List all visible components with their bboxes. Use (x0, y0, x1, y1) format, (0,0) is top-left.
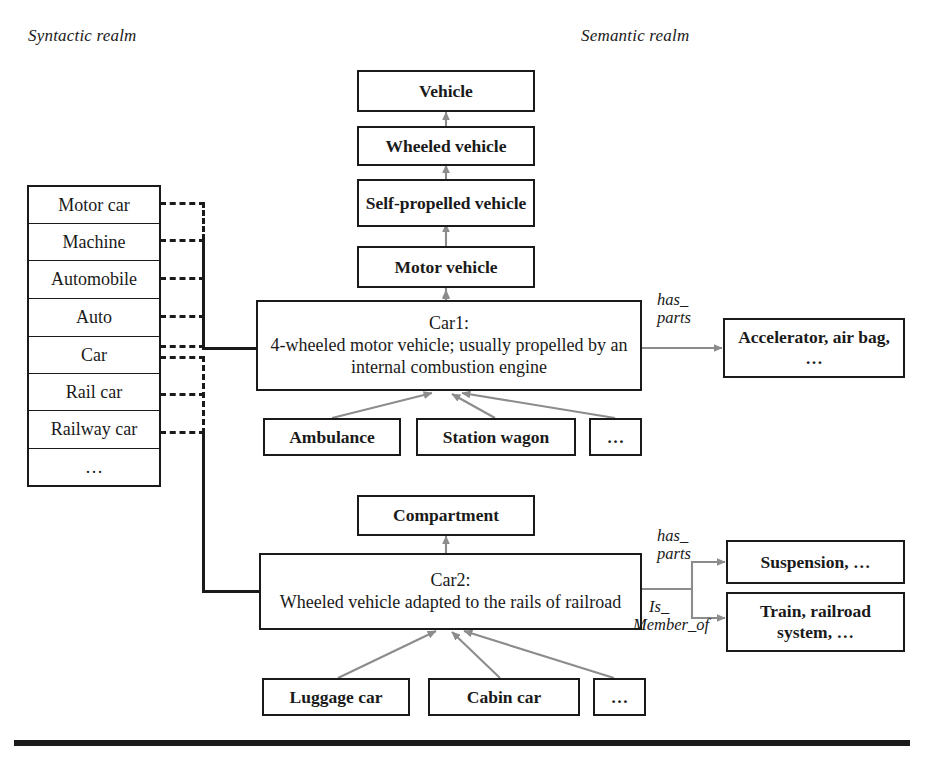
relation-label-line2: parts (657, 309, 691, 327)
hyponym-ambulance[interactable]: Ambulance (263, 418, 401, 456)
heading-syntactic-realm: Syntactic realm (28, 26, 137, 46)
meronym-compartment[interactable]: Compartment (357, 495, 535, 536)
dash-link-car-upper (160, 345, 205, 348)
syn-row-label: Motor car (58, 195, 129, 216)
relation-label-line1: Is_ (649, 598, 709, 616)
sense-box-car2[interactable]: Car2: Wheeled vehicle adapted to the rai… (259, 553, 642, 630)
relation-target-accelerator-airbag[interactable]: Accelerator, air bag, … (723, 318, 905, 378)
syn-row-label: Automobile (51, 269, 137, 290)
node-label: Motor vehicle (390, 257, 501, 278)
dash-link-auto (160, 315, 205, 318)
syn-row-label: Railway car (51, 419, 137, 440)
relation-label-has-parts-car2: has_ parts (657, 527, 691, 564)
relation-label-is-member-of: Is_ Member_of (649, 598, 709, 635)
relation-target-label: Train, railroad system, … (728, 601, 903, 642)
relation-label-has-parts-car1: has_ parts (657, 291, 691, 328)
bottom-divider-rule (14, 740, 910, 746)
dash-link-machine (160, 239, 205, 242)
node-motor-vehicle[interactable]: Motor vehicle (357, 246, 535, 288)
hyponym-label: Cabin car (463, 687, 545, 708)
syn-row-label: Car (81, 345, 107, 366)
hyponym-luggage-car[interactable]: Luggage car (262, 678, 410, 716)
solid-bus-lower (202, 430, 205, 592)
relation-label-line2: parts (657, 545, 691, 563)
relation-label-line2: Member_of (633, 616, 709, 634)
dash-bus-lower (202, 356, 205, 434)
relation-target-suspension[interactable]: Suspension, … (726, 540, 905, 584)
node-wheeled-vehicle[interactable]: Wheeled vehicle (357, 126, 535, 166)
sense-gloss-car2: Wheeled vehicle adapted to the rails of … (270, 592, 631, 613)
relation-target-label: Accelerator, air bag, … (725, 327, 903, 368)
hyponym-label: Station wagon (439, 427, 553, 448)
relation-target-train-railroad-system[interactable]: Train, railroad system, … (726, 592, 905, 652)
syn-row-automobile[interactable]: Automobile (29, 261, 159, 299)
solid-link-to-car2 (202, 590, 260, 593)
node-label: Self-propelled vehicle (362, 193, 531, 214)
syntactic-word-table: Motor car Machine Automobile Auto Car Ra… (27, 185, 161, 487)
hyponym-label: … (607, 687, 633, 708)
sense-id-car2: Car2: (427, 570, 475, 591)
syn-row-label: Rail car (66, 382, 122, 403)
node-label: Vehicle (415, 81, 477, 102)
solid-link-to-car1 (202, 347, 257, 350)
relation-label-line1: has_ (657, 527, 691, 545)
dash-link-automobile (160, 277, 205, 280)
node-label: Wheeled vehicle (381, 136, 510, 157)
relation-target-label: Suspension, … (753, 552, 879, 573)
syn-row-label: … (85, 457, 103, 478)
syn-row-ellipsis[interactable]: … (29, 449, 159, 485)
hyponym-cabin-car[interactable]: Cabin car (428, 678, 580, 716)
node-vehicle[interactable]: Vehicle (357, 70, 535, 112)
syn-row-car[interactable]: Car (29, 337, 159, 374)
solid-bus-upper (202, 240, 205, 348)
syn-row-label: Machine (63, 232, 126, 253)
relation-label-line1: has_ (657, 291, 691, 309)
syn-row-machine[interactable]: Machine (29, 224, 159, 261)
dash-link-railway-car (160, 431, 205, 434)
hyponym-car1-ellipsis[interactable]: … (589, 418, 642, 456)
sense-box-car1[interactable]: Car1: 4-wheeled motor vehicle; usually p… (256, 300, 642, 391)
hyponym-label: Ambulance (285, 427, 379, 448)
syn-row-rail-car[interactable]: Rail car (29, 374, 159, 411)
sense-gloss-car1: 4-wheeled motor vehicle; usually propell… (258, 335, 640, 377)
meronym-label: Compartment (389, 505, 503, 526)
node-self-propelled-vehicle[interactable]: Self-propelled vehicle (357, 179, 535, 227)
sense-id-car1: Car1: (425, 313, 473, 334)
hyponym-label: Luggage car (286, 687, 387, 708)
diagram-canvas: Syntactic realm Semantic realm Motor car… (0, 0, 930, 761)
dash-link-car-lower (160, 356, 205, 359)
syn-row-auto[interactable]: Auto (29, 299, 159, 337)
dash-link-rail-car (160, 393, 205, 396)
hyponym-station-wagon[interactable]: Station wagon (416, 418, 576, 456)
hyponym-label: … (603, 427, 629, 448)
hyponym-car2-ellipsis[interactable]: … (593, 678, 646, 716)
syn-row-motor-car[interactable]: Motor car (29, 187, 159, 224)
heading-semantic-realm: Semantic realm (581, 26, 689, 46)
syn-row-railway-car[interactable]: Railway car (29, 411, 159, 449)
dash-link-motor-car (160, 202, 205, 205)
syn-row-label: Auto (76, 307, 112, 328)
